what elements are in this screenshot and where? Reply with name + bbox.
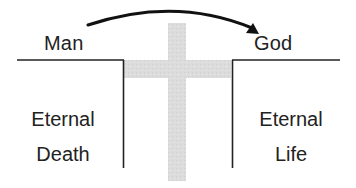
label-god: God bbox=[254, 32, 292, 54]
region-eternal-life-line1: Eternal bbox=[236, 102, 346, 137]
cross-horizontal-beam bbox=[124, 60, 231, 78]
region-eternal-death-line1: Eternal bbox=[8, 102, 118, 137]
region-eternal-death: Eternal Death bbox=[8, 102, 118, 172]
region-eternal-life: Eternal Life bbox=[236, 102, 346, 172]
cross-vertical-beam bbox=[168, 23, 186, 181]
region-eternal-death-line2: Death bbox=[8, 137, 118, 172]
cross-icon bbox=[124, 23, 231, 181]
label-man: Man bbox=[44, 32, 84, 54]
region-eternal-life-line2: Life bbox=[236, 137, 346, 172]
